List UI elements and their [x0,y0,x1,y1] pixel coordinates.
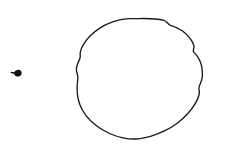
small-blob-body [14,70,22,77]
canvas-background [0,0,226,155]
drawing-canvas [0,0,226,155]
small-blob-tail [11,73,14,74]
drawing-surface [0,0,226,155]
